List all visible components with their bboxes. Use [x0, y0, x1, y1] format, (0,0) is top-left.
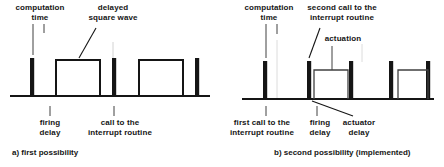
b-label-second-call-to-interrupt-routine: second call to the interrupt routine [294, 3, 390, 22]
a-computation-pulse-1 [30, 58, 34, 96]
b-label-actuator-delay-line2: delay [336, 128, 382, 138]
b-label-first-call-to-interrupt-routine: first call to the interrupt routine [218, 118, 306, 137]
b-label-second-call-line1: second call to the [294, 3, 390, 13]
a-label-computation-time: computation time [3, 3, 77, 22]
figure-b-waveform-svg [222, 0, 444, 167]
b-label-firing-delay-line1: firing [302, 118, 338, 128]
a-label-firing-delay-line2: delay [26, 128, 74, 138]
b-leader-actuator-delay [312, 101, 353, 116]
a-label-call-interrupt-line1: call to the [74, 118, 166, 128]
a-computation-pulse-3 [195, 58, 199, 96]
b-computation-pulse-2 [307, 61, 311, 99]
a-label-firing-delay-line1: firing [26, 118, 74, 128]
b-computation-pulse-3 [349, 61, 353, 99]
a-label-computation-time-line1: computation [3, 3, 77, 13]
figure-a-waveform-svg [0, 0, 222, 167]
a-square-wave-1 [56, 60, 100, 96]
b-computation-pulse-1 [263, 61, 267, 99]
a-label-delayed-square-wave-line2: square wave [72, 13, 154, 23]
b-label-firing-delay: firing delay [302, 118, 338, 137]
figure-a-first-possibility: computation time delayed square wave fir… [0, 0, 222, 167]
b-computation-pulse-4 [389, 61, 393, 99]
a-label-call-to-interrupt-routine: call to the interrupt routine [74, 118, 166, 137]
b-label-actuation: actuation [318, 34, 368, 44]
b-label-second-call-line2: interrupt routine [294, 13, 390, 23]
b-actuation-box-1 [314, 70, 348, 99]
a-computation-pulse-2 [112, 58, 116, 96]
figure-b-caption: b) second possibility (implemented) [274, 148, 410, 158]
b-label-actuator-delay-line1: actuator [336, 118, 382, 128]
figure-a-caption: a) first possibility [12, 148, 78, 158]
b-label-actuator-delay: actuator delay [336, 118, 382, 137]
figure-b-second-possibility: computation time second call to the inte… [222, 0, 444, 167]
b-label-firing-delay-line2: delay [302, 128, 338, 138]
b-label-first-call-line1: first call to the [218, 118, 306, 128]
b-label-first-call-line2: interrupt routine [218, 128, 306, 138]
a-label-call-interrupt-line2: interrupt routine [74, 128, 166, 138]
a-label-computation-time-line2: time [3, 13, 77, 23]
a-leader-delayed-square-wave [79, 28, 96, 58]
a-label-delayed-square-wave: delayed square wave [72, 3, 154, 22]
a-square-wave-2 [139, 60, 183, 96]
a-label-delayed-square-wave-line1: delayed [72, 3, 154, 13]
a-label-firing-delay: firing delay [26, 118, 74, 137]
b-actuation-box-2 [398, 70, 428, 99]
